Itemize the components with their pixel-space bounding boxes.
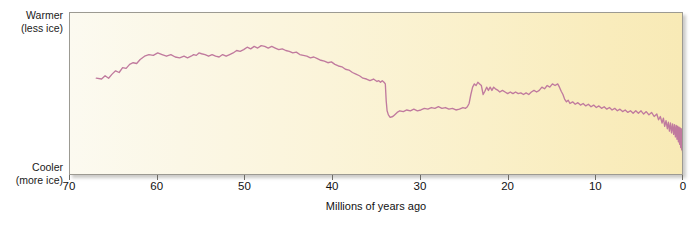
x-axis-tick-label-10: 10	[589, 180, 602, 192]
x-axis-tick-labels: 706050403020100	[0, 180, 699, 196]
x-axis-tick-label-40: 40	[326, 180, 339, 192]
x-axis-tick-label-50: 50	[238, 180, 251, 192]
y-axis-cooler-text: Cooler	[0, 161, 63, 174]
x-axis-tick-label-30: 30	[413, 180, 426, 192]
y-axis-less-ice-text: (less ice)	[0, 22, 63, 35]
x-axis-tick-label-20: 20	[501, 180, 514, 192]
climate-proxy-line	[96, 46, 683, 156]
x-axis-title: Millions of years ago	[69, 200, 683, 212]
x-axis-tick-label-70: 70	[63, 180, 76, 192]
cenozoic-climate-figure: Warmer (less ice) Cooler (more ice) 7060…	[0, 0, 699, 227]
y-axis-warmer-text: Warmer	[0, 9, 63, 22]
x-axis-tick-label-0: 0	[680, 180, 686, 192]
y-axis-top-label: Warmer (less ice)	[0, 9, 63, 35]
climate-curve-svg	[70, 13, 683, 175]
plot-area	[69, 12, 683, 175]
x-axis-tick-label-60: 60	[150, 180, 163, 192]
